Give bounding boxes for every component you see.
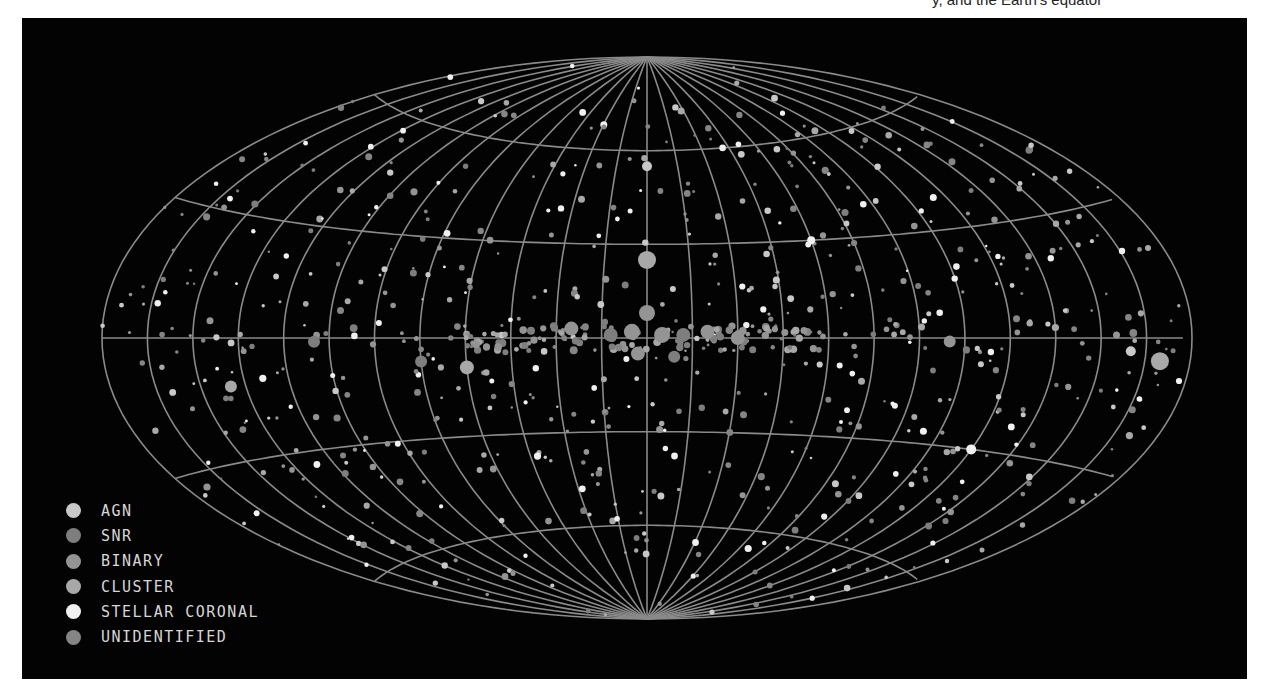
legend-item-unidentified: UNIDENTIFIED [66,624,259,649]
source-point [1000,263,1003,266]
source-point [892,403,898,409]
source-point [809,330,812,333]
source-point [284,253,289,258]
source-point [439,504,443,508]
source-point [702,346,706,350]
source-point [655,357,658,360]
source-point [989,177,995,183]
legend-label: CLUSTER [101,577,175,596]
source-point [883,400,885,402]
source-point [363,449,366,452]
source-point [596,470,602,476]
source-point [980,143,984,147]
source-point [1170,319,1173,322]
source-point [129,293,133,297]
source-point [364,563,368,567]
source-point [871,331,877,337]
source-point [429,538,435,544]
source-point [422,450,427,455]
source-point [215,367,219,371]
source-point [351,100,354,103]
source-point [259,375,266,382]
source-point [549,417,553,421]
source-point [564,322,578,336]
source-point [677,488,681,492]
source-point [778,221,781,224]
source-point [215,204,218,207]
source-point [753,183,756,186]
source-point [580,326,584,330]
source-point [485,593,489,597]
source-point [894,247,897,250]
source-point [514,347,519,352]
source-point [390,303,396,309]
source-point [921,127,925,131]
source-point [768,245,773,250]
source-point [507,568,512,573]
source-point [397,478,404,485]
source-point [490,466,497,473]
source-point [556,406,558,408]
source-point [692,190,695,193]
source-point [732,66,735,69]
source-point [1053,221,1059,227]
source-point [774,146,781,153]
source-point [491,394,496,399]
source-point [893,322,898,327]
source-point [966,444,976,454]
source-point [955,446,960,451]
source-point [1081,500,1085,504]
source-point [380,475,384,479]
source-point [772,284,777,289]
source-point [950,119,955,124]
source-point [1032,173,1035,176]
source-point [570,64,575,69]
source-point [829,254,832,257]
source-point [787,295,794,302]
source-point [658,188,664,194]
source-point [511,112,517,118]
source-point [804,362,808,366]
source-point [918,323,925,330]
source-point [100,323,105,328]
source-point [1096,234,1099,237]
source-point [221,204,227,210]
source-point [1020,522,1025,527]
source-point [275,416,278,419]
source-point [790,595,794,599]
source-point [387,192,394,199]
source-point [374,205,378,209]
source-point [869,519,874,524]
source-point [464,291,467,294]
source-point [541,348,548,355]
source-point [443,266,446,269]
source-point [930,540,935,545]
source-point [314,461,321,468]
source-point [985,245,987,247]
source-point [454,323,461,330]
source-point [360,541,367,548]
source-point [1090,309,1093,312]
source-point [923,346,927,350]
source-point [740,492,746,498]
source-point [169,389,176,396]
source-point [289,467,295,473]
source-point [596,482,600,486]
source-point [786,546,790,550]
source-point [1002,256,1005,259]
source-point [554,336,558,340]
source-point [764,208,771,215]
source-point [758,473,765,480]
source-point [410,270,417,277]
source-point [852,475,856,479]
source-point [300,164,304,168]
source-point [348,241,352,245]
source-point [1125,314,1132,321]
source-point [468,334,473,339]
binary-dot-icon [66,554,81,569]
source-point [726,327,733,334]
source-point [969,188,974,193]
source-point [227,196,233,202]
source-point [281,464,285,468]
source-point [502,332,508,338]
